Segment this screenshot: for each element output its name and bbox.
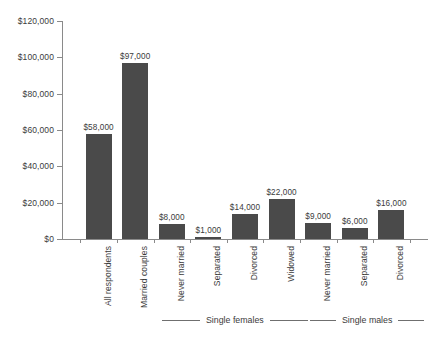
bar (378, 210, 404, 239)
category-label: Separated (212, 246, 222, 286)
y-axis-tick-label: $20,000 (23, 198, 54, 208)
bar-value-label: $22,000 (266, 188, 296, 197)
bar (305, 223, 331, 239)
x-axis-tick (227, 239, 228, 243)
bar (342, 228, 368, 239)
x-axis-tick (373, 239, 374, 243)
y-axis-tick-label: $100,000 (18, 52, 54, 62)
x-axis-tick (263, 239, 264, 243)
bar (159, 224, 185, 239)
y-axis-tick (57, 130, 62, 131)
bar-value-label: $6,000 (342, 217, 368, 226)
y-axis-tick (57, 166, 62, 167)
y-axis-line (62, 21, 63, 239)
bar (86, 134, 112, 239)
bar-value-label: $58,000 (83, 123, 113, 132)
x-axis-tick (337, 239, 338, 243)
y-axis-tick (57, 203, 62, 204)
y-axis-tick-label: $60,000 (23, 125, 54, 135)
x-axis-tick (410, 239, 411, 243)
bar-value-label: $97,000 (120, 52, 150, 61)
bar-value-label: $14,000 (230, 203, 260, 212)
y-axis-tick-label: $40,000 (23, 161, 54, 171)
bar-value-label: $16,000 (376, 199, 406, 208)
y-axis-tick (57, 57, 62, 58)
bar-value-label: $8,000 (159, 213, 185, 222)
group-annotation-single-females: Single females (162, 315, 308, 325)
y-axis-tick-label: $80,000 (23, 89, 54, 99)
bar-value-label: $9,000 (305, 212, 331, 221)
category-label: Married couples (139, 246, 149, 308)
category-label: All respondents (103, 246, 113, 306)
x-axis-tick (117, 239, 118, 243)
y-axis-tick (57, 94, 62, 95)
bar (122, 63, 148, 239)
x-axis-tick (154, 239, 155, 243)
bar-chart: $0$20,000$40,000$60,000$80,000$100,000$1… (0, 0, 447, 343)
group-annotation-label: Single females (205, 315, 265, 325)
group-rule-left (162, 320, 200, 321)
group-rule-right (398, 320, 424, 321)
x-axis-tick (80, 239, 81, 243)
y-axis-tick (57, 21, 62, 22)
category-label: Separated (359, 246, 369, 286)
category-label: Divorced (395, 246, 405, 280)
category-label: Widowed (286, 246, 296, 282)
category-label: Never married (176, 246, 186, 301)
x-axis-tick (300, 239, 301, 243)
y-axis-tick-label: $0 (44, 234, 54, 244)
group-rule-left (310, 320, 336, 321)
x-axis-tick (190, 239, 191, 243)
group-annotation-single-males: Single males (310, 315, 424, 325)
bar-value-label: $1,000 (196, 226, 222, 235)
category-label: Divorced (249, 246, 259, 280)
y-axis-tick-label: $120,000 (18, 16, 54, 26)
bar (195, 237, 221, 239)
bar (269, 199, 295, 239)
category-label: Never married (322, 246, 332, 301)
bar (232, 214, 258, 239)
group-rule-right (270, 320, 308, 321)
group-annotation-label: Single males (341, 315, 393, 325)
